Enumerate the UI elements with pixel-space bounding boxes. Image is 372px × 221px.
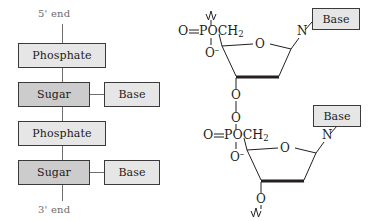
- bond-c1prime-to-nitrogen-upper: [291, 38, 299, 49]
- upper-poch-subscript: 2: [238, 29, 243, 39]
- upper-anionic-oxygen-charge: –: [215, 45, 219, 55]
- upper-three-prime-oxygen-label: O: [231, 89, 241, 101]
- bond-c1prime-to-c2prime-upper: [279, 49, 291, 76]
- bond-c4prime-to-c3prime-lower: [247, 150, 261, 180]
- lower-anionic-oxygen-label: O–: [230, 150, 244, 163]
- upper-anionic-oxygen-atom: O: [205, 46, 215, 60]
- upper-poch-text: POCH: [199, 23, 238, 38]
- lower-three-prime-oxygen-label: O: [256, 193, 266, 205]
- bond-c1prime-to-nitrogen-lower: [316, 142, 324, 153]
- bond-c4prime-to-c3prime-upper: [222, 46, 236, 76]
- bond-ring-oxygen-to-c1prime-lower: [295, 148, 316, 153]
- upper-anionic-oxygen-label: O–: [205, 46, 219, 59]
- squiggle-bond-upper-top: [206, 11, 216, 20]
- upper-phosphorus-group-label: POCH2: [199, 25, 244, 38]
- figure-canvas: 5' end Phosphate Sugar Base Phosphate Su…: [0, 0, 372, 221]
- squiggle-bond-lower-bottom: [251, 208, 261, 217]
- lower-carbonyl-oxygen-label: O: [203, 129, 213, 142]
- upper-ring-oxygen-label: O: [255, 38, 265, 50]
- lower-poch-text: POCH: [224, 127, 263, 142]
- lower-bridging-oxygen-label: O: [231, 112, 241, 124]
- base-box-lower-nucleotide[interactable]: Base: [313, 105, 361, 127]
- lower-ring-oxygen-label: O: [280, 142, 290, 154]
- upper-glycosidic-nitrogen-label: N: [297, 25, 308, 37]
- bond-c4prime-to-ring-oxygen-lower: [247, 148, 278, 150]
- base-box-upper-nucleotide[interactable]: Base: [312, 8, 360, 30]
- lower-phosphorus-group-label: POCH2: [224, 129, 269, 142]
- upper-carbonyl-oxygen-label: O: [178, 25, 188, 38]
- lower-anionic-oxygen-charge: –: [240, 149, 244, 159]
- lower-glycosidic-nitrogen-label: N: [322, 129, 333, 141]
- lower-poch-subscript: 2: [263, 133, 268, 143]
- lower-anionic-oxygen-atom: O: [230, 150, 240, 164]
- bond-c1prime-to-c2prime-lower: [304, 153, 316, 180]
- bond-c4prime-to-ring-oxygen-upper: [222, 44, 253, 46]
- bond-ring-oxygen-to-c1prime-upper: [270, 44, 291, 49]
